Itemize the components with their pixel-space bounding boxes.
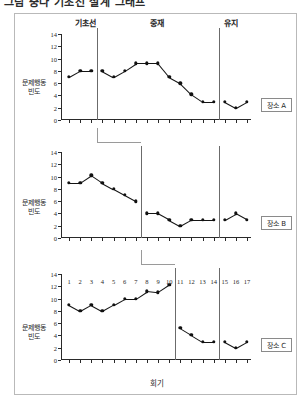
data-point — [123, 69, 126, 72]
x-tick — [80, 238, 81, 241]
x-tick-label: 9 — [156, 278, 159, 285]
x-tick — [225, 360, 226, 363]
y-axis-line-a — [61, 34, 62, 120]
y-axis-title-b: 문제행동 빈도 — [21, 199, 47, 216]
plot-area-a: 02468101214 — [61, 34, 251, 120]
x-tick — [191, 120, 192, 123]
x-tick-label: 12 — [188, 278, 195, 285]
baseline-step-connector — [141, 264, 174, 265]
x-tick — [158, 238, 159, 241]
y-tick-label: 12 — [51, 161, 58, 168]
data-point — [245, 218, 248, 221]
x-tick-label: 4 — [101, 278, 104, 285]
x-tick — [214, 120, 215, 123]
x-tick — [125, 120, 126, 123]
y-tick-label: 14 — [51, 149, 58, 156]
x-tick — [147, 360, 148, 363]
y-tick — [58, 311, 61, 312]
data-point — [101, 309, 104, 312]
data-point — [67, 75, 70, 78]
y-tick-label: 8 — [54, 185, 57, 192]
x-tick-label: 17 — [244, 278, 251, 285]
x-tick-label: 16 — [233, 278, 240, 285]
data-point — [223, 218, 226, 221]
x-tick — [180, 238, 181, 241]
x-axis-line-c — [61, 359, 251, 360]
y-tick — [58, 120, 61, 121]
x-tick — [91, 238, 92, 241]
y-tick-label: 14 — [51, 31, 58, 38]
x-tick — [114, 360, 115, 363]
panel-location-a: 문제행동 빈도 02468101214 장소 A — [15, 28, 298, 146]
x-tick-label: 15 — [222, 278, 229, 285]
figure-frame: 기초선 중재 유지 문제행동 빈도 02468101214 장소 A 문제행동 … — [14, 13, 297, 395]
x-tick — [125, 238, 126, 241]
x-axis-line-a — [61, 119, 251, 120]
figure-title-strip: 그림 중다 기초선 설계 그래프 — [0, 0, 303, 10]
x-tick-label: 1 — [67, 278, 70, 285]
x-tick-label: 7 — [134, 278, 137, 285]
y-tick — [58, 360, 61, 361]
x-tick — [136, 238, 137, 241]
panel-location-b: 문제행동 빈도 02468101214 장소 B — [15, 146, 298, 268]
phase-divider-maintenance — [219, 146, 220, 238]
x-tick — [191, 238, 192, 241]
x-tick — [214, 360, 215, 363]
data-point — [234, 346, 237, 349]
x-tick — [247, 120, 248, 123]
phase-divider-baseline — [97, 28, 98, 120]
y-tick-label: 14 — [51, 271, 58, 278]
baseline-step-connector — [97, 142, 142, 143]
plot-area-b: 02468101214 — [61, 152, 251, 238]
y-tick-label: 8 — [54, 307, 57, 314]
data-point — [78, 309, 81, 312]
data-point — [167, 283, 170, 286]
x-tick — [191, 360, 192, 363]
x-axis-title: 회기 — [15, 377, 298, 388]
data-point — [145, 212, 148, 215]
x-tick — [147, 120, 148, 123]
data-point — [245, 340, 248, 343]
y-tick — [58, 323, 61, 324]
x-tick-label: 13 — [199, 278, 206, 285]
x-tick — [169, 120, 170, 123]
y-tick — [58, 59, 61, 60]
x-tick — [91, 120, 92, 123]
x-tick-label: 8 — [145, 278, 148, 285]
y-tick-label: 6 — [54, 198, 57, 205]
x-tick — [114, 120, 115, 123]
x-tick — [169, 238, 170, 241]
y-tick-label: 6 — [54, 80, 57, 87]
data-point — [112, 75, 115, 78]
phase-label-maintenance: 유지 — [224, 17, 238, 28]
data-point — [145, 62, 148, 65]
y-axis-line-b — [61, 152, 62, 238]
location-badge-b: 장소 B — [261, 216, 292, 230]
x-tick-label: 5 — [112, 278, 115, 285]
data-point — [123, 297, 126, 300]
y-tick — [58, 201, 61, 202]
x-tick — [158, 360, 159, 363]
y-axis-title-c: 문제행동 빈도 — [21, 324, 47, 341]
x-tick — [102, 120, 103, 123]
data-point — [134, 199, 137, 202]
data-point — [212, 218, 215, 221]
x-tick — [236, 238, 237, 241]
x-tick — [203, 238, 204, 241]
y-axis-title-a: 문제행동 빈도 — [21, 79, 47, 96]
y-tick-label: 12 — [51, 43, 58, 50]
y-tick — [58, 335, 61, 336]
baseline-step-connector — [97, 128, 98, 142]
y-tick — [58, 189, 61, 190]
y-tick-label: 8 — [54, 67, 57, 74]
x-tick — [114, 238, 115, 241]
x-tick — [69, 238, 70, 241]
y-axis-line-c — [61, 274, 62, 360]
x-tick — [225, 238, 226, 241]
baseline-step-connector — [141, 250, 142, 264]
y-tick-label: 4 — [54, 332, 57, 339]
y-tick — [58, 34, 61, 35]
y-tick-label: 4 — [54, 210, 57, 217]
x-tick — [180, 360, 181, 363]
y-tick-label: 0 — [54, 357, 57, 364]
